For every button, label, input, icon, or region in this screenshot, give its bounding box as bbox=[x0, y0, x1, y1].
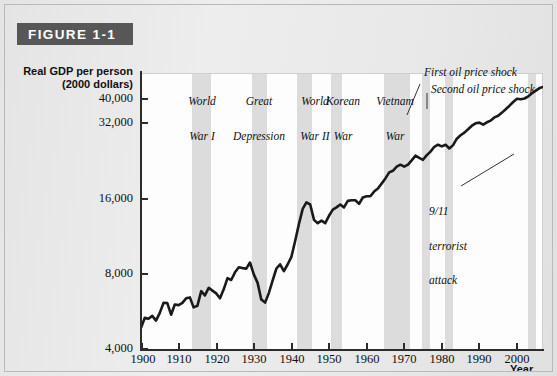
annotation-korean-war: Korean War bbox=[317, 73, 369, 165]
annotation-great-depression-line2: Depression bbox=[223, 131, 295, 143]
annotation-korean-war-line2: War bbox=[317, 131, 369, 143]
annotation-vietnam-war-line1: Vietnam bbox=[367, 96, 423, 108]
x-tick-1920 bbox=[216, 343, 218, 350]
x-tick-1980 bbox=[441, 343, 443, 350]
y-tick-label-16000: 16,000 bbox=[71, 191, 133, 206]
x-tick-1970 bbox=[403, 343, 405, 350]
annotation-world-war-i-line2: War I bbox=[175, 131, 229, 143]
x-tick-2000 bbox=[516, 343, 518, 350]
annotation-nine-eleven-line3: attack bbox=[429, 275, 499, 287]
x-axis-title: Year bbox=[510, 363, 533, 372]
y-axis-title-line2: (2000 dollars) bbox=[21, 78, 133, 90]
y-tick-label-32000: 32,000 bbox=[71, 115, 133, 130]
x-tick-1950 bbox=[328, 343, 330, 350]
annotation-world-war-i-line1: World bbox=[175, 96, 229, 108]
x-tick-1900 bbox=[141, 343, 143, 350]
x-tick-1940 bbox=[291, 343, 293, 350]
x-tick-1960 bbox=[366, 343, 368, 350]
figure-page: FIGURE 1-1 Real GDP per person (2000 dol… bbox=[0, 0, 557, 376]
figure-frame: FIGURE 1-1 Real GDP per person (2000 dol… bbox=[4, 4, 553, 372]
annotation-nine-eleven-line1: 9/11 bbox=[429, 206, 499, 218]
y-axis-line bbox=[140, 71, 142, 351]
y-tick-8000 bbox=[141, 273, 148, 275]
y-tick-40000 bbox=[141, 98, 148, 100]
annotation-korean-war-line1: Korean bbox=[317, 96, 369, 108]
x-tick-1990 bbox=[478, 343, 480, 350]
annotation-world-war-i: World War I bbox=[175, 73, 229, 165]
annotation-vietnam-war-line2: War bbox=[367, 131, 423, 143]
y-tick-16000 bbox=[141, 198, 148, 200]
annotation-vietnam-war: Vietnam War bbox=[367, 73, 423, 165]
x-axis-line bbox=[140, 349, 544, 351]
x-tick-1910 bbox=[178, 343, 180, 350]
y-tick-label-40000: 40,000 bbox=[71, 91, 133, 106]
figure-banner: FIGURE 1-1 bbox=[17, 23, 133, 45]
y-tick-32000 bbox=[141, 122, 148, 124]
annotation-great-depression: Great Depression bbox=[223, 73, 295, 165]
annotation-second-oil-price-shock: Second oil price shock bbox=[431, 84, 535, 96]
annotation-first-oil-price-shock: First oil price shock bbox=[424, 67, 517, 79]
figure-banner-label: FIGURE 1-1 bbox=[28, 27, 116, 42]
y-axis-title-line1: Real GDP per person bbox=[21, 65, 133, 77]
annotation-nine-eleven: 9/11 terrorist attack bbox=[429, 183, 499, 310]
annotation-great-depression-line1: Great bbox=[223, 96, 295, 108]
annotation-nine-eleven-line2: terrorist bbox=[429, 241, 499, 253]
x-tick-1930 bbox=[253, 343, 255, 350]
y-tick-label-8000: 8,000 bbox=[71, 266, 133, 281]
